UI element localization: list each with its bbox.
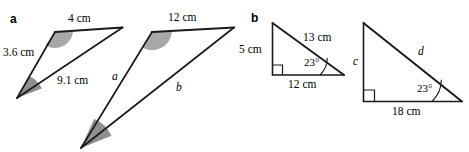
label-18cm: 18 cm xyxy=(392,106,420,118)
label-12cm-part-b: 12 cm xyxy=(288,79,316,91)
label-angle-23-large: 23° xyxy=(417,83,432,94)
figure-canvas: a b 4 cm 3.6 cm 9.1 cm 12 cm a b 5 cm 13… xyxy=(0,0,469,152)
part-a-large-triangle-shape xyxy=(81,28,234,149)
label-side-b: b xyxy=(176,82,182,94)
label-side-a: a xyxy=(112,71,118,83)
side-top-small-a xyxy=(55,28,123,33)
label-12cm-part-a: 12 cm xyxy=(168,12,196,24)
right-angle-marker-large-b xyxy=(364,90,375,102)
angle-arc-top-small-a xyxy=(46,31,74,48)
part-b-large-triangle-shape xyxy=(364,23,463,102)
label-side-c: c xyxy=(353,56,358,68)
label-angle-23-small: 23° xyxy=(304,57,319,68)
right-angle-marker-small-b xyxy=(273,65,283,75)
label-9-1cm: 9.1 cm xyxy=(57,75,88,87)
part-label-a: a xyxy=(10,13,17,25)
label-13cm: 13 cm xyxy=(303,32,331,44)
side-top-large-a xyxy=(152,28,234,33)
part-label-b: b xyxy=(251,12,258,24)
label-5cm: 5 cm xyxy=(239,44,262,56)
label-3-6cm: 3.6 cm xyxy=(3,47,34,59)
label-4cm: 4 cm xyxy=(68,13,91,25)
label-side-d: d xyxy=(418,46,424,58)
side-left-large-a xyxy=(81,32,152,148)
side-hyp-large-b xyxy=(364,23,463,102)
part-a-small-triangle-shape xyxy=(17,28,123,99)
